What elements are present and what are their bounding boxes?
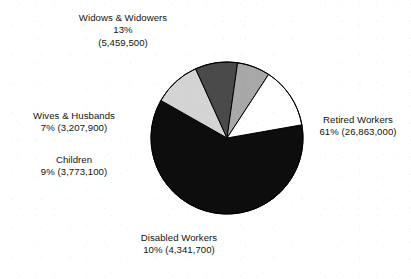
slice-label-retired-workers: Retired Workers 61% (26,863,000) <box>306 114 410 139</box>
slice-label-children: Children 9% (3,773,100) <box>4 154 144 179</box>
slice-label-wives-husbands: Wives & Husbands 7% (3,207,900) <box>4 110 144 135</box>
slice-label-wives-husbands-name: Wives & Husbands <box>4 110 144 122</box>
slice-label-wives-husbands-value: 7% (3,207,900) <box>4 122 144 134</box>
slice-label-widows-widowers-name: Widows & Widowers <box>42 12 204 24</box>
pie-chart-figure: · ·· Widows & Widowers 13% (5,459,500) W… <box>0 0 411 279</box>
pie-slice-group <box>151 62 303 214</box>
slice-label-widows-widowers: Widows & Widowers 13% (5,459,500) <box>42 12 204 49</box>
slice-label-widows-widowers-percent: 13% <box>42 24 204 36</box>
slice-label-disabled-workers-value: 10% (4,341,700) <box>96 244 262 256</box>
slice-label-retired-workers-name: Retired Workers <box>306 114 410 126</box>
slice-label-disabled-workers-name: Disabled Workers <box>96 232 262 244</box>
slice-label-widows-widowers-value: (5,459,500) <box>42 37 204 49</box>
slice-label-children-value: 9% (3,773,100) <box>4 166 144 178</box>
slice-label-retired-workers-value: 61% (26,863,000) <box>306 126 410 138</box>
slice-label-disabled-workers: Disabled Workers 10% (4,341,700) <box>96 232 262 257</box>
slice-label-children-name: Children <box>4 154 144 166</box>
